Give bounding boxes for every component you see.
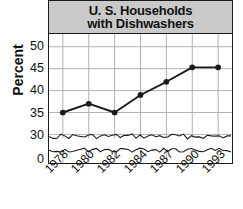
y-axis-tick-labels: 50454035300	[14, 0, 44, 209]
plot-area	[48, 33, 233, 164]
data-series-line	[49, 34, 232, 163]
chart-title-banner: U. S. Households with Dishwashers	[48, 0, 233, 33]
chart-title-line-2: with Dishwashers	[87, 17, 194, 30]
x-axis-tick-labels: 1978198019821984198719901993	[48, 164, 233, 209]
y-tick-label: 30	[20, 129, 44, 142]
chart-title-line-1: U. S. Households	[89, 4, 193, 17]
y-tick-label: 45	[20, 62, 44, 75]
y-tick-label: 50	[20, 40, 44, 53]
y-tick-label: 40	[20, 84, 44, 97]
y-tick-label: 0	[20, 153, 44, 166]
y-tick-label: 35	[20, 107, 44, 120]
chart-figure: U. S. Households with Dishwashers Percen…	[0, 0, 243, 209]
